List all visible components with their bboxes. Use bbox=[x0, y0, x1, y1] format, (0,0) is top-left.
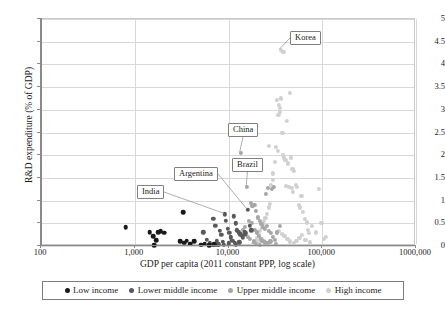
x-axis-tick-mark bbox=[134, 245, 135, 248]
data-point bbox=[162, 231, 167, 236]
y-axis-tick-mark bbox=[37, 200, 40, 201]
x-axis-tick-mark bbox=[415, 245, 416, 248]
data-point bbox=[265, 223, 269, 227]
data-point bbox=[264, 192, 268, 196]
gridline-horizontal bbox=[41, 42, 414, 43]
data-point bbox=[254, 208, 258, 212]
data-point bbox=[300, 233, 304, 237]
y-axis-tick-label: 0.5 bbox=[411, 218, 445, 227]
data-point bbox=[201, 230, 205, 234]
data-point bbox=[277, 223, 281, 227]
data-point bbox=[310, 223, 314, 227]
scatter-chart-figure: 00.511.522.533.544.55 1001,00010,000100,… bbox=[0, 0, 445, 310]
y-axis-tick-label: 4.5 bbox=[411, 36, 445, 45]
y-axis-tick-mark bbox=[37, 222, 40, 223]
gridline-horizontal bbox=[41, 155, 414, 156]
x-axis-tick-label: 1000,000 bbox=[399, 248, 431, 257]
gridline-horizontal bbox=[41, 19, 414, 20]
data-point bbox=[156, 230, 161, 235]
data-point bbox=[154, 238, 159, 243]
x-axis-tick-label: 100,000 bbox=[307, 248, 335, 257]
data-point bbox=[288, 91, 292, 95]
y-axis-tick-mark bbox=[37, 109, 40, 110]
legend-entry[interactable]: Low income bbox=[65, 286, 119, 295]
data-point bbox=[299, 194, 303, 198]
legend-marker-icon bbox=[326, 288, 331, 293]
annotation-callout-korea: Korea bbox=[290, 31, 321, 45]
data-point bbox=[301, 210, 305, 214]
data-point bbox=[245, 207, 249, 211]
data-point bbox=[285, 119, 289, 123]
legend-entry[interactable]: Lower middle income bbox=[129, 286, 217, 295]
legend-label: Low income bbox=[73, 286, 118, 295]
legend-marker-icon bbox=[129, 288, 134, 293]
data-point bbox=[219, 232, 223, 236]
data-point bbox=[280, 130, 284, 134]
data-point bbox=[289, 155, 293, 159]
annotation-callout-india: India bbox=[137, 185, 164, 199]
x-axis-tick-mark bbox=[40, 245, 41, 248]
data-point bbox=[303, 238, 307, 242]
legend-entry[interactable]: High income bbox=[326, 286, 381, 295]
legend-label: High income bbox=[335, 286, 382, 295]
data-point bbox=[268, 239, 272, 243]
x-axis-tick-label: 100 bbox=[34, 248, 47, 257]
y-axis-tick-mark bbox=[37, 41, 40, 42]
y-axis-tick-mark bbox=[37, 63, 40, 64]
data-point bbox=[267, 205, 271, 209]
y-axis-spine bbox=[40, 18, 42, 246]
y-axis-tick-label: 5 bbox=[411, 14, 445, 23]
legend-entry[interactable]: Upper middle income bbox=[228, 286, 315, 295]
y-axis-tick-mark bbox=[37, 154, 40, 155]
x-axis-tick-mark bbox=[321, 245, 322, 248]
data-point bbox=[276, 113, 280, 117]
data-point bbox=[276, 149, 280, 153]
legend: Low incomeLower middle incomeUpper middl… bbox=[42, 281, 404, 300]
y-axis-tick-mark bbox=[37, 132, 40, 133]
y-axis-tick-label: 2 bbox=[411, 150, 445, 159]
data-point bbox=[232, 214, 236, 218]
data-point bbox=[295, 185, 299, 189]
gridline-horizontal bbox=[41, 87, 414, 88]
annotation-callout-argentina: Argentina bbox=[174, 167, 218, 181]
gridline-vertical bbox=[322, 19, 323, 244]
gridline-vertical bbox=[135, 19, 136, 244]
data-point bbox=[233, 221, 237, 225]
data-point bbox=[267, 144, 271, 148]
y-axis-tick-label: 1 bbox=[411, 195, 445, 204]
gridline-horizontal bbox=[41, 64, 414, 65]
data-point bbox=[181, 210, 186, 215]
annotation-callout-brazil: Brazil bbox=[232, 158, 263, 172]
x-axis-tick-label: 10,000 bbox=[216, 248, 239, 257]
data-point bbox=[192, 239, 197, 244]
x-axis-tick-label: 1,000 bbox=[124, 248, 143, 257]
data-point bbox=[317, 187, 321, 191]
x-axis-title: GDP per capita (2011 constant PPP, log s… bbox=[40, 259, 415, 269]
y-axis-tick-mark bbox=[37, 86, 40, 87]
y-axis-tick-label: 3.5 bbox=[411, 82, 445, 91]
data-point bbox=[272, 160, 276, 164]
data-point bbox=[271, 171, 275, 175]
data-point bbox=[245, 185, 249, 189]
legend-label: Lower middle income bbox=[138, 286, 217, 295]
data-point bbox=[270, 178, 274, 182]
data-point bbox=[286, 161, 290, 165]
data-point bbox=[279, 96, 283, 100]
y-axis-tick-label: 2.5 bbox=[411, 127, 445, 136]
legend-marker-icon bbox=[65, 288, 70, 293]
data-point bbox=[272, 185, 276, 189]
data-point bbox=[307, 231, 311, 235]
y-axis-tick-label: 4 bbox=[411, 59, 445, 68]
y-axis-tick-mark bbox=[37, 18, 40, 19]
data-point bbox=[314, 230, 318, 234]
gridline-horizontal bbox=[41, 223, 414, 224]
x-axis-tick-mark bbox=[228, 245, 229, 248]
y-axis-tick-label: 3 bbox=[411, 105, 445, 114]
data-point bbox=[292, 169, 296, 173]
y-axis-title: R&D expenditure (% of GDP) bbox=[24, 35, 34, 215]
data-point bbox=[213, 223, 217, 227]
data-point bbox=[211, 217, 215, 221]
data-point bbox=[291, 189, 295, 193]
data-point bbox=[123, 225, 128, 230]
y-axis-tick-mark bbox=[37, 177, 40, 178]
